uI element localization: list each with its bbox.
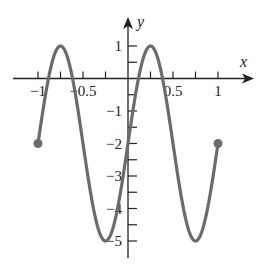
endpoint-dot <box>34 139 43 148</box>
x-tick-label: −1 <box>30 83 46 99</box>
y-tick-label: 1 <box>115 38 123 54</box>
function-graph: −1−0.50.51 x 1−1−2−3−4−5 y <box>0 0 262 265</box>
endpoint-dot <box>214 139 223 148</box>
y-tick-label: −3 <box>106 168 122 184</box>
y-tick-label: −1 <box>106 103 122 119</box>
y-axis-label: y <box>135 13 145 31</box>
x-tick-label: 1 <box>214 83 222 99</box>
y-tick-label: −2 <box>106 136 122 152</box>
y-axis: 1−1−2−3−4−5 y <box>106 13 145 258</box>
x-axis-label: x <box>239 53 247 70</box>
x-axis-tick-labels: −1−0.50.51 <box>30 83 222 99</box>
